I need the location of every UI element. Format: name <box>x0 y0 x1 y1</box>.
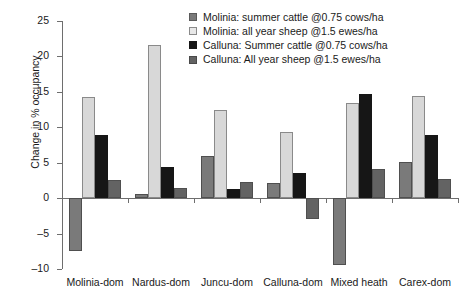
y-axis-tick-label: 20 <box>37 49 49 61</box>
y-axis-tick-label: 15 <box>37 85 49 97</box>
bar <box>161 167 174 198</box>
bar <box>201 156 214 198</box>
x-axis-tick <box>326 198 327 203</box>
bar <box>359 94 372 198</box>
bar <box>240 182 253 198</box>
y-axis-tick: 10 <box>57 127 62 128</box>
bar <box>95 135 108 198</box>
bar <box>280 132 293 198</box>
bar <box>306 198 319 219</box>
bar <box>82 97 95 198</box>
bar <box>69 198 82 251</box>
y-axis-tick-label: –10 <box>31 262 49 274</box>
bar <box>267 183 280 198</box>
bar <box>425 135 438 198</box>
y-axis-tick-label: 0 <box>43 191 49 203</box>
x-axis-category-label: Nardus-dom <box>132 276 190 288</box>
x-axis-tick <box>458 198 459 203</box>
x-axis-category-label: Juncu-dom <box>201 276 253 288</box>
y-axis-tick: –5 <box>57 234 62 235</box>
x-axis-tick <box>128 198 129 203</box>
legend-swatch-icon <box>189 13 197 21</box>
y-axis-tick: 25 <box>57 21 62 22</box>
x-axis-category-label: Molinia-dom <box>66 276 123 288</box>
bar <box>293 173 306 199</box>
bar-chart: Molinia: summer cattle @0.75 cows/haMoli… <box>0 0 465 291</box>
y-axis-tick-label: 25 <box>37 14 49 26</box>
y-axis-tick: 5 <box>57 163 62 164</box>
x-axis-tick <box>194 198 195 203</box>
bar <box>333 198 346 265</box>
x-axis-tick <box>260 198 261 203</box>
bar <box>135 194 148 198</box>
x-axis-category-label: Carex-dom <box>399 276 451 288</box>
y-axis-tick: –10 <box>57 269 62 270</box>
plot-area: 2520151050–5–10 Molinia-domNardus-domJun… <box>62 21 458 269</box>
y-axis-line <box>62 21 63 269</box>
bar <box>412 96 425 198</box>
bar <box>148 45 161 198</box>
y-axis-tick: 20 <box>57 56 62 57</box>
y-axis-tick-label: –5 <box>37 227 49 239</box>
x-axis-category-label: Mixed heath <box>330 276 387 288</box>
bar <box>214 110 227 198</box>
bar <box>346 103 359 198</box>
bar <box>399 162 412 198</box>
bar <box>174 188 187 198</box>
x-axis-tick <box>62 198 63 203</box>
x-axis-category-label: Calluna-dom <box>263 276 323 288</box>
bar <box>438 179 451 198</box>
bar <box>227 189 240 198</box>
y-axis-tick-label: 5 <box>43 156 49 168</box>
bar <box>372 169 385 198</box>
y-axis-tick: 15 <box>57 92 62 93</box>
bar <box>108 180 121 198</box>
x-axis-tick <box>392 198 393 203</box>
y-axis-tick-label: 10 <box>37 120 49 132</box>
